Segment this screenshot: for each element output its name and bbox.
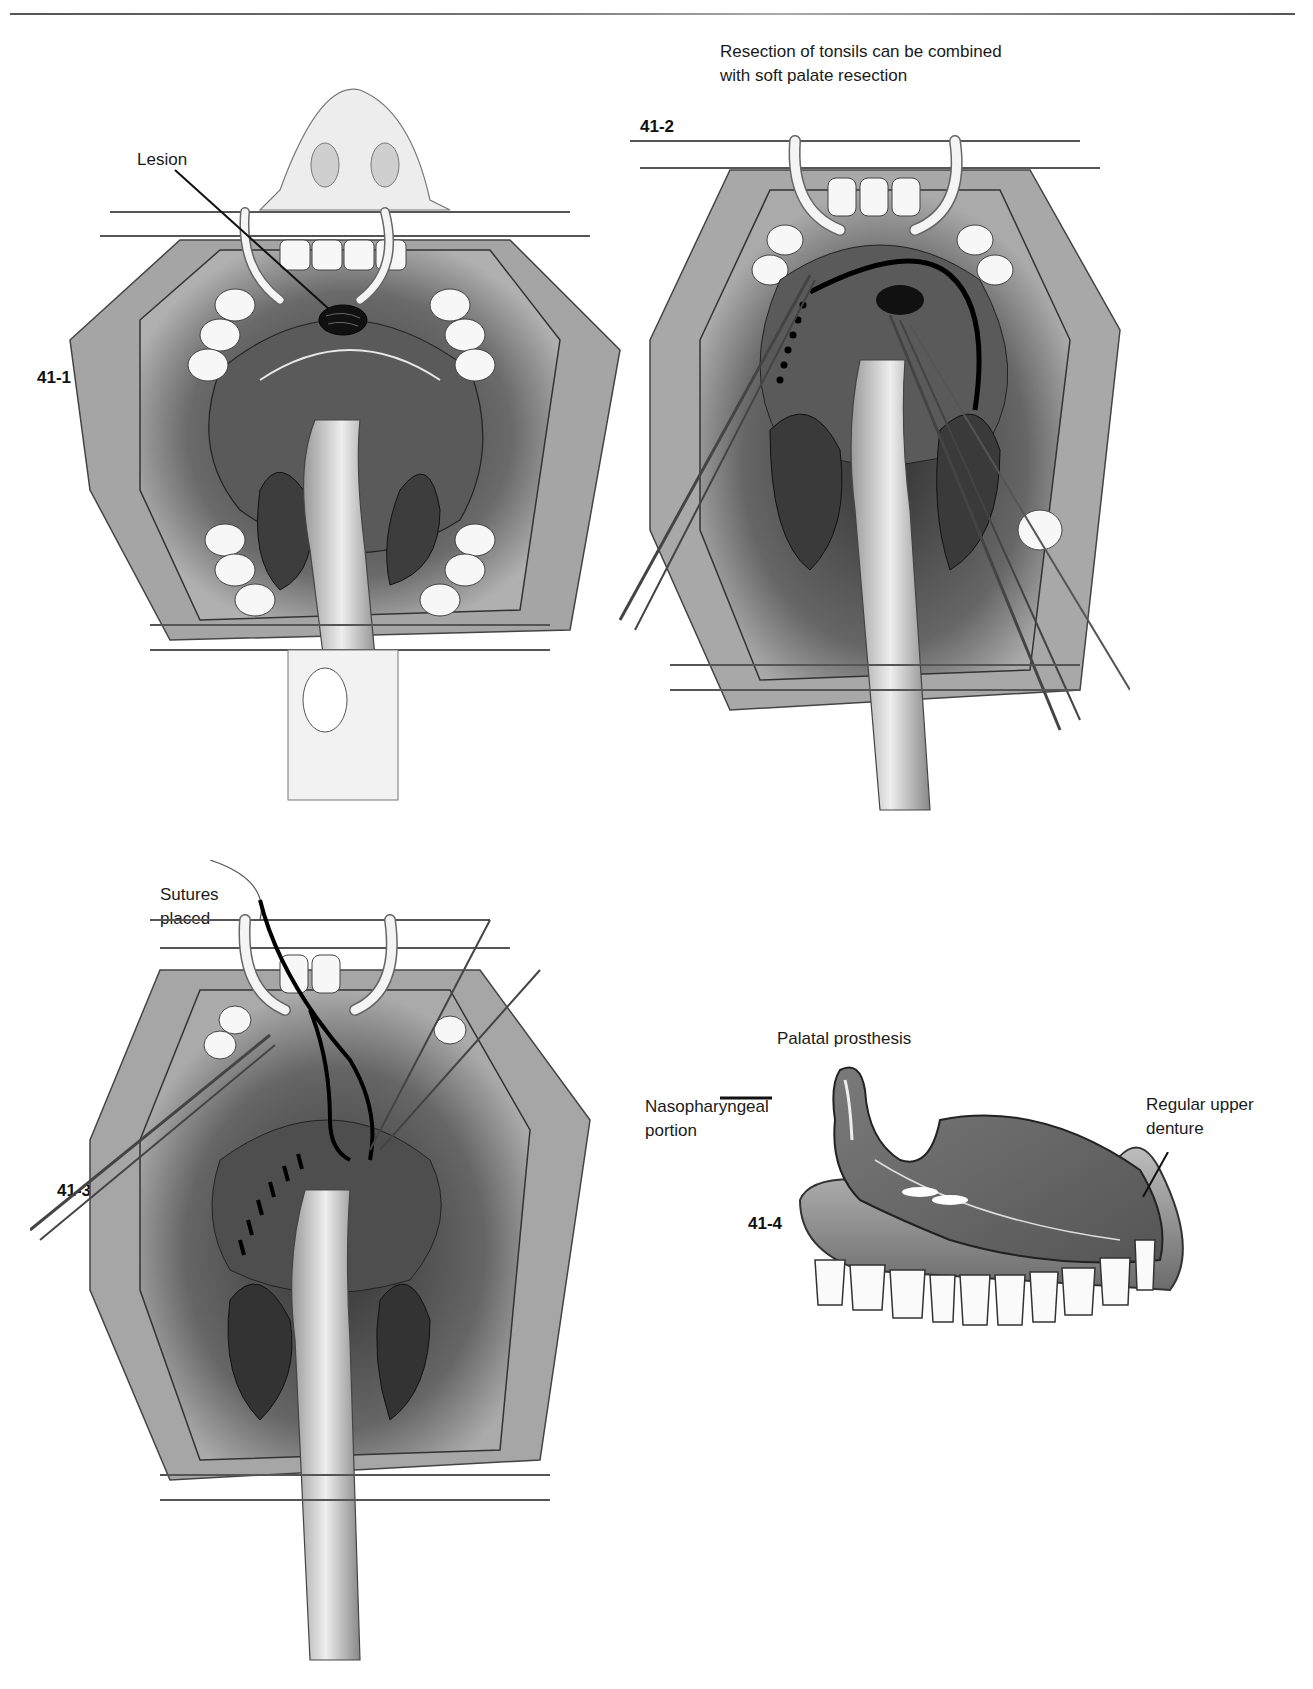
- illustration-oral-cavity-lesion: [30, 70, 650, 810]
- callout-nasopharyngeal-line2: portion: [645, 1119, 697, 1143]
- figure-41-3: [30, 860, 650, 1689]
- header-rule: [10, 13, 1295, 15]
- illustration-palatal-prosthesis: [790, 1060, 1220, 1350]
- figure-41-2-caption-line2: with soft palate resection: [720, 64, 907, 88]
- leader-nasopharyngeal: [720, 1090, 780, 1110]
- figure-41-4: [790, 1060, 1220, 1350]
- figure-41-2-caption-line1: Resection of tonsils can be combined: [720, 40, 1002, 64]
- illustration-sutures-placed: [30, 860, 650, 1689]
- figure-41-2: [610, 110, 1130, 860]
- callout-lesion: Lesion: [137, 148, 187, 172]
- illustration-tonsil-palate-resection: [610, 110, 1130, 860]
- figure-label-41-1: 41-1: [37, 368, 71, 388]
- figure-41-4-title: Palatal prosthesis: [777, 1027, 911, 1051]
- leader-regular-denture: [1138, 1152, 1178, 1202]
- figure-label-41-4: 41-4: [748, 1214, 782, 1234]
- figure-41-1: Lesion: [30, 70, 650, 810]
